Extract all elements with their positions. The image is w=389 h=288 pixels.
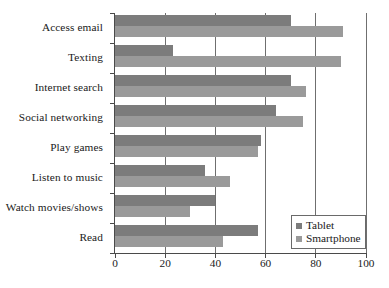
y-axis-label: Access email (0, 22, 103, 33)
x-tick-label: 40 (210, 258, 221, 269)
bar-smartphone (115, 206, 190, 217)
y-axis-label: Watch movies/shows (0, 202, 103, 213)
bar-tablet (115, 225, 258, 236)
bar-tablet (115, 15, 291, 26)
x-tick-label: 20 (160, 258, 171, 269)
y-axis-label: Social networking (0, 112, 103, 123)
x-axis-tick-labels: 020406080100 (115, 258, 366, 278)
bar-tablet (115, 195, 215, 206)
x-tick-label: 0 (112, 258, 118, 269)
y-tick-mark (110, 73, 115, 74)
bar-smartphone (115, 236, 223, 247)
y-axis-label: Read (0, 232, 103, 243)
bar-smartphone (115, 146, 258, 157)
bar-smartphone (115, 116, 303, 127)
bar-tablet (115, 165, 205, 176)
y-axis-label: Play games (0, 142, 103, 153)
y-tick-mark (110, 43, 115, 44)
bar-tablet (115, 45, 173, 56)
y-tick-mark (110, 253, 115, 254)
y-axis-label: Texting (0, 52, 103, 63)
legend-entry: Tablet (296, 219, 361, 232)
y-axis-label: Internet search (0, 82, 103, 93)
bar-chart: Access emailTextingInternet searchSocial… (0, 0, 389, 288)
bar-smartphone (115, 86, 306, 97)
legend-label: Tablet (306, 220, 334, 231)
gridline (215, 13, 216, 253)
y-tick-mark (110, 13, 115, 14)
x-tick-label: 80 (310, 258, 321, 269)
x-tick-label: 100 (358, 258, 375, 269)
x-tick-label: 60 (260, 258, 271, 269)
y-axis-label: Listen to music (0, 172, 103, 183)
bar-smartphone (115, 26, 343, 37)
bar-tablet (115, 105, 276, 116)
x-axis-line (114, 253, 366, 254)
y-tick-mark (110, 133, 115, 134)
gridline (265, 13, 266, 253)
y-tick-mark (110, 103, 115, 104)
bar-tablet (115, 75, 291, 86)
y-tick-mark (110, 193, 115, 194)
y-tick-mark (110, 163, 115, 164)
legend-swatch-icon (296, 236, 302, 242)
bar-smartphone (115, 176, 230, 187)
bar-smartphone (115, 56, 341, 67)
y-axis-category-labels: Access emailTextingInternet searchSocial… (0, 13, 110, 253)
y-tick-mark (110, 223, 115, 224)
bar-tablet (115, 135, 261, 146)
legend-label: Smartphone (306, 233, 361, 244)
chart-legend: TabletSmartphone (291, 215, 366, 249)
legend-swatch-icon (296, 223, 302, 229)
legend-entry: Smartphone (296, 232, 361, 245)
